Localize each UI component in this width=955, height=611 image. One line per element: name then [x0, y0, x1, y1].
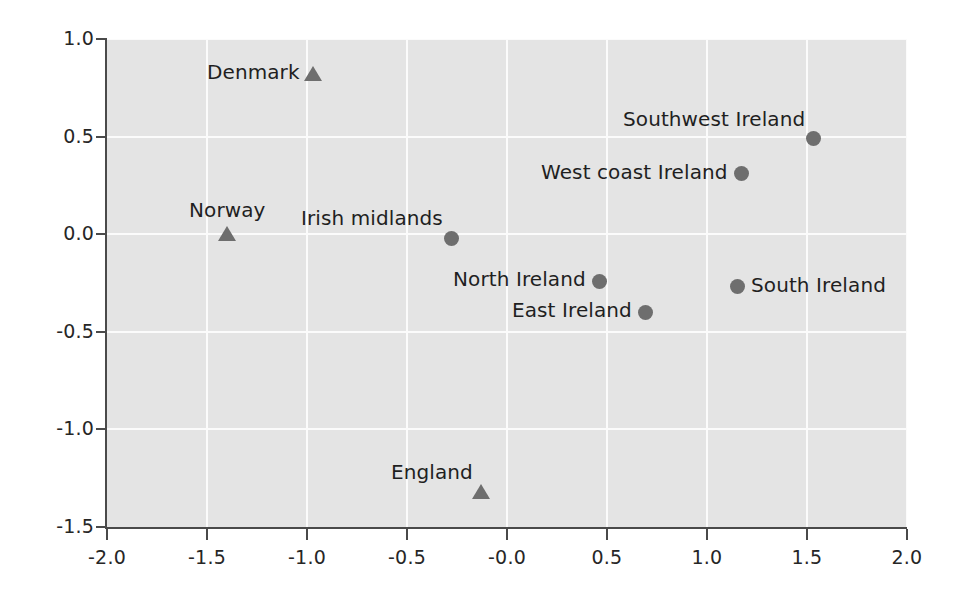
x-axis-tick	[406, 529, 408, 540]
gridline-horizontal	[107, 331, 907, 333]
data-point-label: Irish midlands	[301, 206, 443, 230]
x-axis-tick-label: -0.5	[367, 546, 447, 568]
data-point-triangle[interactable]	[218, 226, 236, 241]
data-point-label: Denmark	[207, 60, 300, 84]
y-axis-tick-label: -0.5	[34, 320, 94, 342]
data-point-circle[interactable]	[806, 131, 821, 146]
gridline-vertical	[906, 39, 907, 527]
x-axis-tick	[106, 529, 108, 540]
x-axis-tick-label: 0.5	[567, 546, 647, 568]
x-axis-tick	[606, 529, 608, 540]
gridline-vertical	[306, 39, 308, 527]
y-axis-tick-label: 0.5	[34, 125, 94, 147]
data-point-circle[interactable]	[444, 231, 459, 246]
data-point-label: South Ireland	[751, 273, 886, 297]
data-point-label: Norway	[189, 198, 265, 222]
data-point-label: England	[391, 460, 473, 484]
data-point-label: East Ireland	[512, 298, 632, 322]
data-point-triangle[interactable]	[304, 66, 322, 81]
data-point-circle[interactable]	[638, 305, 653, 320]
data-point-triangle[interactable]	[472, 484, 490, 499]
x-axis-tick-label: -1.0	[267, 546, 347, 568]
y-axis-tick	[96, 136, 105, 138]
x-axis-tick	[306, 529, 308, 540]
y-axis-tick	[96, 526, 105, 528]
y-axis-tick	[96, 233, 105, 235]
x-axis-tick	[506, 529, 508, 540]
data-point-label: Southwest Ireland	[623, 107, 805, 131]
data-point-circle[interactable]	[592, 274, 607, 289]
data-point-label: North Ireland	[453, 267, 586, 291]
x-axis-tick	[206, 529, 208, 540]
data-point-circle[interactable]	[730, 279, 745, 294]
x-axis-tick-label: 1.0	[667, 546, 747, 568]
y-axis-tick-label: 0.0	[34, 222, 94, 244]
y-axis-tick	[96, 38, 105, 40]
x-axis-tick-label: 2.0	[867, 546, 947, 568]
y-axis-spine	[105, 38, 107, 529]
gridline-horizontal	[107, 428, 907, 430]
y-axis-tick-label: -1.5	[34, 515, 94, 537]
gridline-vertical	[406, 39, 408, 527]
y-axis-tick	[96, 428, 105, 430]
x-axis-tick-label: -0.0	[467, 546, 547, 568]
x-axis-tick-label: -1.5	[167, 546, 247, 568]
x-axis-tick	[906, 529, 908, 540]
y-axis-tick-label: -1.0	[34, 417, 94, 439]
data-point-label: West coast Ireland	[541, 160, 728, 184]
x-axis-tick	[806, 529, 808, 540]
y-axis-tick-label: 1.0	[34, 27, 94, 49]
scatter-plot-figure: 1.00.50.0-0.5-1.0-1.5-2.0-1.5-1.0-0.5-0.…	[0, 0, 955, 611]
gridline-vertical	[206, 39, 208, 527]
data-point-circle[interactable]	[734, 166, 749, 181]
y-axis-tick	[96, 331, 105, 333]
x-axis-tick	[706, 529, 708, 540]
gridline-horizontal	[107, 39, 907, 40]
x-axis-tick-label: -2.0	[67, 546, 147, 568]
x-axis-tick-label: 1.5	[767, 546, 847, 568]
gridline-horizontal	[107, 136, 907, 138]
